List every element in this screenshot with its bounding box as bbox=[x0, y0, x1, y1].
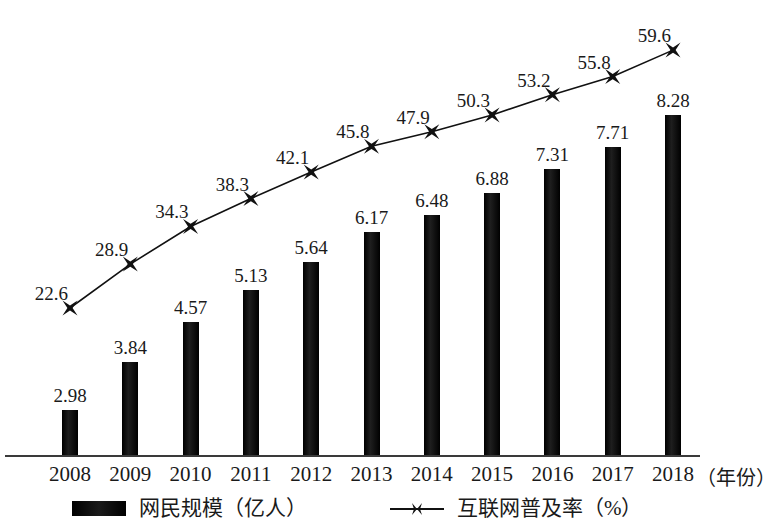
line-value-label-2018: 59.6 bbox=[615, 25, 671, 47]
line-value-label-2014: 47.9 bbox=[374, 107, 430, 129]
bar-2015 bbox=[484, 193, 500, 455]
x-tick-2016: 2016 bbox=[520, 462, 584, 487]
chart-container: 2.983.844.575.135.646.176.486.887.317.71… bbox=[0, 0, 767, 532]
x-axis-unit-label: （年份） bbox=[696, 462, 767, 491]
legend-label-line-series: 互联网普及率（%） bbox=[457, 498, 643, 519]
bar-2010 bbox=[183, 322, 199, 455]
line-value-label-2017: 55.8 bbox=[555, 52, 611, 74]
bar-2018 bbox=[665, 115, 681, 455]
x-axis-line bbox=[5, 455, 700, 457]
x-tick-2015: 2015 bbox=[460, 462, 524, 487]
legend-label-bar-series: 网民规模（亿人） bbox=[139, 498, 307, 519]
line-value-label-2010: 34.3 bbox=[133, 201, 189, 223]
chart-legend: 网民规模（亿人） 互联网普及率（%） bbox=[0, 498, 767, 532]
bar-value-label-2008: 2.98 bbox=[40, 385, 100, 407]
x-tick-2008: 2008 bbox=[38, 462, 102, 487]
bar-swatch-icon bbox=[72, 501, 126, 516]
bar-2011 bbox=[243, 290, 259, 455]
line-value-label-2012: 42.1 bbox=[253, 147, 309, 169]
x-tick-2009: 2009 bbox=[98, 462, 162, 487]
bar-value-label-2012: 5.64 bbox=[281, 237, 341, 259]
bar-value-label-2013: 6.17 bbox=[342, 207, 402, 229]
bar-2017 bbox=[605, 147, 621, 455]
legend-item-line-series: 互联网普及率（%） bbox=[390, 498, 643, 519]
bar-value-label-2009: 3.84 bbox=[100, 337, 160, 359]
line-swatch-icon bbox=[390, 500, 444, 518]
line-value-label-2013: 45.8 bbox=[314, 121, 370, 143]
line-value-label-2016: 53.2 bbox=[494, 70, 550, 92]
bar-2013 bbox=[364, 232, 380, 455]
line-value-label-2015: 50.3 bbox=[434, 90, 490, 112]
bar-2012 bbox=[303, 262, 319, 455]
bar-2008 bbox=[62, 410, 78, 455]
line-value-label-2011: 38.3 bbox=[193, 174, 249, 196]
x-tick-2012: 2012 bbox=[279, 462, 343, 487]
x-tick-2010: 2010 bbox=[159, 462, 223, 487]
bar-2014 bbox=[424, 215, 440, 455]
bar-value-label-2015: 6.88 bbox=[462, 168, 522, 190]
bar-value-label-2010: 4.57 bbox=[161, 297, 221, 319]
x-tick-2011: 2011 bbox=[219, 462, 283, 487]
bar-value-label-2018: 8.28 bbox=[643, 90, 703, 112]
x-tick-2014: 2014 bbox=[400, 462, 464, 487]
x-tick-2013: 2013 bbox=[340, 462, 404, 487]
line-value-label-2008: 22.6 bbox=[12, 283, 68, 305]
bar-value-label-2011: 5.13 bbox=[221, 265, 281, 287]
legend-item-bar-series: 网民规模（亿人） bbox=[72, 498, 307, 519]
bar-2009 bbox=[122, 362, 138, 455]
plot-area: 2.983.844.575.135.646.176.486.887.317.71… bbox=[0, 0, 767, 470]
line-series-layer bbox=[0, 0, 767, 470]
bar-value-label-2016: 7.31 bbox=[522, 144, 582, 166]
bar-value-label-2017: 7.71 bbox=[583, 122, 643, 144]
bar-value-label-2014: 6.48 bbox=[402, 190, 462, 212]
line-value-label-2009: 28.9 bbox=[72, 239, 128, 261]
bar-2016 bbox=[544, 169, 560, 455]
x-tick-2017: 2017 bbox=[581, 462, 645, 487]
